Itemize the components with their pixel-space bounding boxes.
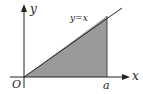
y-axis-arrow-icon [21,4,27,12]
line-label: y=x [70,14,88,23]
y-axis-label: y [30,3,37,15]
diagram: y y=x O a x [0,0,143,94]
x-axis-label: x [132,70,139,82]
point-a-label: a [103,80,110,91]
origin-label: O [12,79,21,90]
x-axis-arrow-icon [122,74,130,80]
